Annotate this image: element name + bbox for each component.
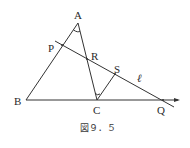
label-l: ℓ [137,72,142,84]
label-A: A [74,9,82,21]
point-Q [162,99,164,101]
geometry-figure: A P R S ℓ B C Q 図９．５ [0,0,190,148]
arrow-head-icon [174,98,180,102]
figure-caption: 図９．５ [80,123,116,133]
label-P: P [48,42,54,54]
label-B: B [14,95,21,107]
segment-CS [97,74,115,100]
point-R [86,58,88,60]
segment-AB [26,23,78,100]
label-S: S [114,63,120,75]
label-R: R [91,50,99,62]
label-Q: Q [157,104,165,116]
label-C: C [93,104,100,116]
angle-mark-C [95,93,100,95]
point-P [61,44,63,46]
angle-mark-A [74,30,81,32]
